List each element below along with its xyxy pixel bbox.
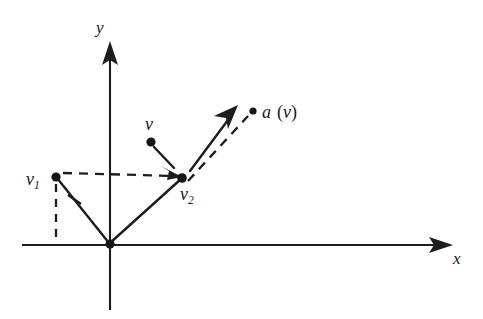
v1-label-base: v (26, 169, 34, 189)
v1-label-subscript: 1 (34, 179, 40, 191)
vector-diagram-canvas: y x v1 v v2 a(v) (0, 0, 483, 319)
dashed-construction-group (56, 116, 248, 245)
v1-dot (51, 172, 60, 181)
av-close-paren: ) (291, 102, 297, 123)
v-label: v (145, 114, 153, 134)
y-axis-label: y (94, 18, 104, 37)
av-dot (249, 107, 256, 114)
av-label: a(v) (262, 102, 297, 123)
v2-dot (177, 173, 187, 183)
v-dot (146, 137, 155, 146)
x-axis-label: x (452, 249, 461, 268)
origin-dot (105, 239, 114, 248)
v-to-v2-arrow-shaft (154, 147, 174, 168)
v1-label: v1 (26, 169, 40, 191)
av-argument: v (283, 102, 291, 122)
labels-group: y x v1 v v2 a(v) (26, 18, 461, 268)
v2-to-av-arrowhead (214, 105, 238, 129)
v2-label: v2 (180, 184, 194, 206)
origin-to-v2-segment (110, 179, 181, 243)
arrows-group (154, 105, 238, 180)
av-function-name: a (262, 102, 271, 122)
v-label-base: v (145, 114, 153, 134)
v1-to-origin-segment (57, 178, 109, 243)
v2-label-base: v (180, 184, 188, 204)
axes-group (22, 41, 453, 310)
v1-to-v2-dashed-line (63, 173, 176, 176)
v2-to-av-arrow-shaft (190, 116, 231, 171)
point-dots-group (51, 107, 256, 248)
v2-label-subscript: 2 (188, 194, 194, 206)
figure-root: y x v1 v v2 a(v) (0, 0, 483, 319)
v2-to-av-dashed-line (188, 116, 248, 181)
solid-vectors-group (57, 178, 181, 243)
angle-tick-mark (68, 195, 81, 204)
